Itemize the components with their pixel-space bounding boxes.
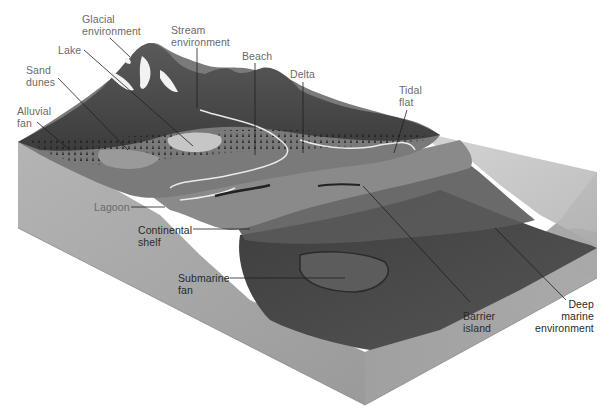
label-alluvial-fan: Alluvial fan [17,105,51,129]
label-glacial-environment: Glacial environment [82,13,141,37]
block-diagram [0,0,610,417]
label-deep-marine-environment: Deep marine environment [535,298,594,334]
label-tidal-flat: Tidal flat [399,84,422,108]
leader-glacial [110,38,130,57]
label-lagoon: Lagoon [94,201,130,213]
label-beach: Beach [242,50,272,62]
label-delta: Delta [290,68,315,80]
label-continental-shelf: Continental shelf [138,224,192,248]
label-sand-dunes: Sand dunes [26,64,55,88]
label-submarine-fan: Submarine fan [178,272,230,296]
label-barrier-island: Barrier island [463,310,495,334]
label-lake: Lake [58,44,81,56]
label-stream-environment: Stream environment [171,24,230,48]
